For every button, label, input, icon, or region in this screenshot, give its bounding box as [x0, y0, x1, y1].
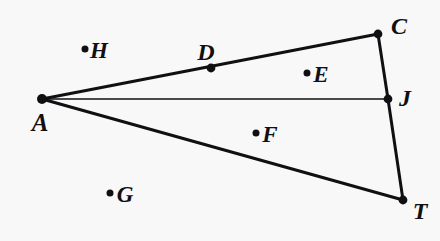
point-label-e: E: [313, 63, 328, 86]
segment-j-t: [388, 99, 403, 200]
point-label-c: C: [391, 14, 407, 38]
geometry-figure: A C J T D E F G H: [0, 0, 440, 241]
point-dot-t: [399, 196, 408, 205]
point-label-d: D: [197, 40, 214, 64]
point-label-a: A: [32, 110, 49, 135]
point-dot-j: [384, 95, 393, 104]
point-dot-g: [107, 190, 114, 197]
point-label-t: T: [413, 199, 428, 223]
point-dot-a: [37, 94, 47, 104]
point-label-f: F: [262, 123, 277, 146]
segment-c-j: [378, 34, 388, 99]
figure-canvas: [0, 0, 440, 241]
point-label-h: H: [90, 39, 108, 62]
point-dot-f: [253, 130, 260, 137]
point-label-g: G: [117, 183, 134, 206]
point-label-j: J: [399, 86, 411, 110]
point-dot-c: [374, 30, 383, 39]
point-dot-h: [82, 46, 89, 53]
segment-a-t: [42, 99, 403, 200]
point-dot-e: [304, 70, 311, 77]
